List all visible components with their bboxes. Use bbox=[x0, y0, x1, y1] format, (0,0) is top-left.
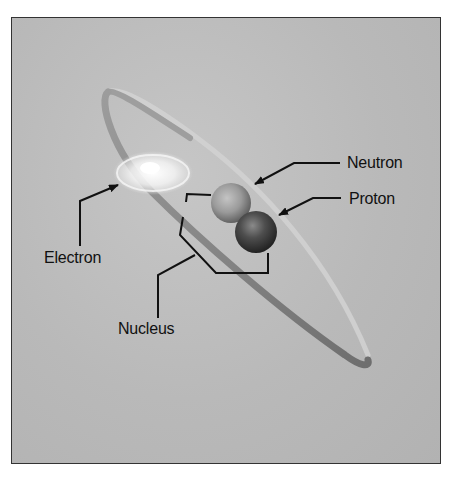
proton-arrow bbox=[279, 198, 341, 215]
nucleus-label: Nucleus bbox=[118, 320, 174, 338]
electron-particle bbox=[113, 151, 193, 195]
proton-sphere bbox=[235, 211, 277, 253]
atom-illustration bbox=[0, 0, 453, 478]
neutron-label: Neutron bbox=[347, 154, 403, 172]
electron-arrow bbox=[80, 185, 118, 246]
electron-label: Electron bbox=[44, 249, 101, 267]
neutron-arrow bbox=[255, 163, 340, 184]
proton-label: Proton bbox=[349, 190, 395, 208]
nucleus-leader bbox=[158, 255, 195, 318]
